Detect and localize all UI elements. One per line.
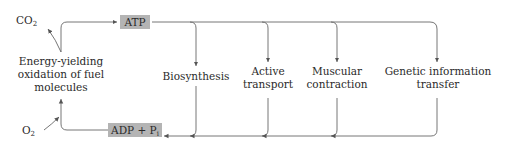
arrow-atp-to-muscular: [331, 22, 337, 62]
arrow-oxidation-to-atp: [61, 22, 117, 52]
arrow-atp-to-genetic: [152, 22, 437, 62]
arrow-atp-to-biosynthesis: [190, 22, 196, 66]
arrow-biosynthesis-to-adp: [190, 86, 196, 136]
arrow-muscular-to-adp: [331, 98, 337, 136]
arrow-o2-input: [44, 117, 59, 130]
arrow-genetic-to-adp: [164, 98, 437, 136]
adp-pi-box: ADP + Pi: [108, 123, 162, 137]
consumer-biosynthesis: Biosynthesis: [161, 70, 231, 83]
atp-box: ATP: [120, 15, 150, 29]
consumer-muscular-contraction: Muscular contraction: [302, 65, 372, 91]
consumer-active-transport: Active transport: [238, 65, 298, 91]
oxidation-process-label: Energy-yielding oxidation of fuel molecu…: [2, 55, 120, 94]
arrow-adp-to-oxidation: [61, 99, 108, 130]
o2-label: O2: [22, 124, 35, 141]
consumer-genetic-information-transfer: Genetic information transfer: [382, 65, 494, 91]
arrow-atp-to-transport: [262, 22, 268, 62]
co2-label: CO2: [16, 14, 37, 31]
arrow-co2-release: [48, 29, 61, 52]
arrow-transport-to-adp: [262, 98, 268, 136]
